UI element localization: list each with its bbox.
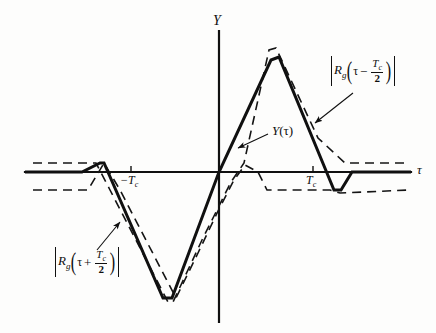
tick-label-positive-tc-sub: c [313,180,317,189]
leader-line-y-tau [238,134,268,148]
tick-label-negative-tc-sub: c [135,180,139,189]
tau-symbol-left: τ [77,256,82,268]
paren-open-right: ( [347,60,352,82]
plus-operator-left: + [84,256,91,269]
fraction-tc-over-2-left: Tc 2 [94,249,108,275]
x-axis-label: τ [417,163,422,176]
minus-operator-right: − [360,65,367,78]
fraction-denominator-right: 2 [371,72,383,84]
solid-curve-annotation-arg: (τ) [279,123,293,138]
fraction-tc-over-2-right: Tc 2 [370,58,384,84]
abs-bar-open-left [55,247,56,277]
rg-symbol-right: Rg [334,63,346,80]
dashed-left-annotation: Rg ( τ + Tc 2 ) [53,247,121,280]
leader-line-rg-plus [97,222,120,250]
tick-label-positive-tc: Tc [306,174,316,189]
dashed-right-annotation: Rg ( τ − Tc 2 ) [329,56,397,89]
abs-bar-close-left [118,247,119,277]
tick-label-negative-tc-text: −T [120,173,135,187]
figure-canvas [0,0,436,333]
y-axis-label: Y [213,14,221,28]
paren-close-left: ) [110,251,115,273]
abs-bar-open-right [331,56,332,86]
rg-symbol-left: Rg [58,254,70,271]
tau-symbol-right: τ [353,65,358,77]
tick-label-negative-tc: −Tc [120,174,138,189]
signal-correlation-figure: Y τ −Tc Tc Y(τ) Rg ( τ − Tc 2 ) Rg ( [0,0,436,333]
fraction-numerator-right: Tc [370,58,384,72]
abs-bar-close-right [394,56,395,86]
paren-close-right: ) [386,60,391,82]
paren-open-left: ( [71,251,76,273]
solid-curve-annotation: Y(τ) [272,124,293,137]
tick-label-positive-tc-text: T [306,173,313,187]
leader-line-rg-minus [315,93,353,123]
fraction-denominator-left: 2 [95,263,107,275]
fraction-numerator-left: Tc [94,249,108,263]
